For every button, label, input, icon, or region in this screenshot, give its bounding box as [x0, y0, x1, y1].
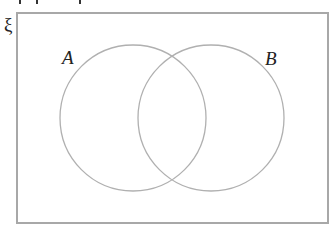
set-b-circle	[138, 45, 284, 191]
cropped-heading-fragment	[19, 0, 81, 4]
set-a-label: A	[60, 47, 74, 68]
universal-set-frame	[17, 13, 328, 223]
set-a-circle	[60, 45, 206, 191]
set-b-label: B	[265, 48, 277, 69]
universal-set-label: ξ	[4, 14, 13, 35]
venn-diagram: ξ A B	[0, 0, 332, 234]
